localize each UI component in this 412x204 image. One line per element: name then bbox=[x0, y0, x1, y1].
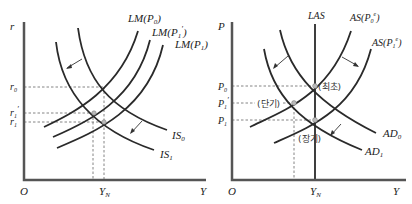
lm-p1-label: LM(P1) bbox=[174, 38, 208, 52]
arrowhead-icon bbox=[273, 63, 278, 69]
r0-tick-label: r0 bbox=[10, 81, 17, 93]
is-lm-panel: r r0 r1′ r1 O YN Y LM(P0) LM(P1′) LM(P1)… bbox=[10, 12, 208, 199]
ad1-label: AD1 bbox=[364, 145, 383, 159]
as-p0e-label: AS(P0e) bbox=[349, 11, 380, 24]
p0-tick-label: P0 bbox=[217, 81, 227, 93]
y-axis-label: Y bbox=[393, 185, 401, 197]
as-p0e-curve bbox=[250, 31, 351, 127]
short-run-equilibrium-point bbox=[292, 101, 297, 106]
arrowhead-icon bbox=[66, 64, 72, 69]
p1-prime-tick-label: P1′ bbox=[217, 96, 229, 110]
initial-equilibrium-point bbox=[313, 84, 318, 89]
long-run-annotation: (장기) bbox=[298, 134, 321, 144]
ad-as-panel: P P0 P1′ P1 O YN Y LAS AS(P0e) AS(P1e) A… bbox=[217, 10, 406, 199]
ad0-label: AD0 bbox=[382, 127, 402, 141]
lm-p0-curve bbox=[44, 31, 138, 127]
is0-label: IS0 bbox=[171, 129, 185, 143]
initial-annotation: (최초) bbox=[318, 82, 341, 92]
y-axis-label: Y bbox=[200, 185, 208, 197]
figure: r r0 r1′ r1 O YN Y LM(P0) LM(P1′) LM(P1)… bbox=[0, 0, 412, 204]
lm-p0-label: LM(P0) bbox=[127, 12, 161, 26]
equilibrium-point bbox=[102, 120, 106, 124]
is1-curve bbox=[56, 42, 154, 150]
as-p1e-label: AS(P1e) bbox=[371, 36, 402, 49]
as-p1e-curve bbox=[274, 49, 371, 143]
yn-tick-label: YN bbox=[99, 185, 110, 199]
short-run-annotation: (단기) bbox=[257, 99, 280, 109]
arrowhead-icon bbox=[353, 62, 359, 67]
las-label: LAS bbox=[307, 10, 325, 21]
yn-tick-label: YN bbox=[310, 185, 321, 199]
origin-label: O bbox=[20, 185, 28, 197]
p1-tick-label: P1 bbox=[217, 115, 227, 127]
equilibrium-point bbox=[92, 111, 96, 115]
long-run-equilibrium-point bbox=[313, 118, 318, 123]
origin-label: O bbox=[228, 185, 236, 197]
p-axis-label: P bbox=[217, 20, 225, 32]
is1-label: IS1 bbox=[159, 148, 173, 162]
r-axis-label: r bbox=[10, 20, 15, 32]
